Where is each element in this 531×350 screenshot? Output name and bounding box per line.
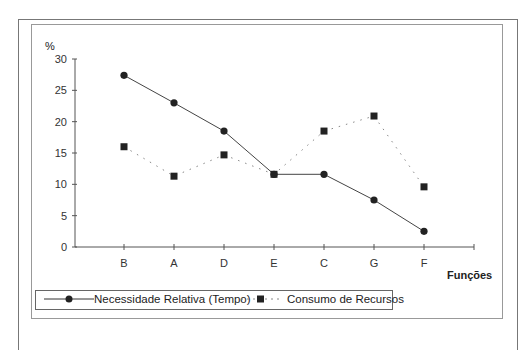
data-point-circle <box>220 127 227 134</box>
circle-line-icon <box>44 292 94 306</box>
data-point-circle <box>120 72 127 79</box>
y-tick-label: 25 <box>55 84 67 96</box>
square-dotted-icon <box>241 292 281 306</box>
x-tick-label: F <box>421 257 428 269</box>
y-tick-label: 30 <box>55 53 67 65</box>
x-tick-label: D <box>220 257 228 269</box>
y-tick-label: 0 <box>61 241 67 253</box>
data-point-square <box>271 171 278 178</box>
series-necessidade-line <box>124 75 424 231</box>
y-tick-label: 15 <box>55 147 67 159</box>
legend-item-necessidade: Necessidade Relativa (Tempo) <box>44 292 251 306</box>
data-point-square <box>421 183 428 190</box>
legend-label: Necessidade Relativa (Tempo) <box>94 293 251 305</box>
x-tick-label: B <box>120 257 127 269</box>
data-point-circle <box>420 228 427 235</box>
x-axis-title: Funções <box>447 269 492 281</box>
data-point-square <box>221 151 228 158</box>
x-tick-label: A <box>170 257 178 269</box>
data-point-circle <box>170 99 177 106</box>
legend-item-consumo: Consumo de Recursos <box>241 292 404 306</box>
legend-label: Consumo de Recursos <box>287 293 404 305</box>
data-point-square <box>321 128 328 135</box>
y-tick-label: 5 <box>61 210 67 222</box>
data-point-square <box>371 113 378 120</box>
x-tick-label: E <box>270 257 277 269</box>
y-tick-label: 10 <box>55 178 67 190</box>
data-point-circle <box>320 171 327 178</box>
x-tick-label: C <box>320 257 328 269</box>
y-axis-title: % <box>45 40 55 52</box>
data-point-square <box>171 173 178 180</box>
data-point-circle <box>370 196 377 203</box>
data-point-square <box>121 143 128 150</box>
x-tick-label: G <box>370 257 379 269</box>
legend: Necessidade Relativa (Tempo) Consumo de … <box>35 290 393 310</box>
y-tick-label: 20 <box>55 116 67 128</box>
